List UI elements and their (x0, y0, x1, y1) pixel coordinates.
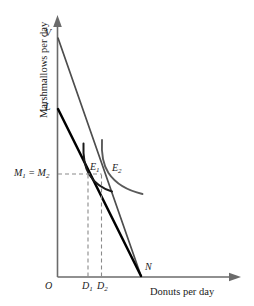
y-axis-arrowhead (53, 15, 62, 27)
x-axis-title: Donuts per day (150, 287, 214, 298)
x-axis-arrowhead (229, 273, 241, 281)
x-tick-label-d1: D1 (82, 281, 93, 293)
point-label-n: N (145, 262, 152, 272)
y-tick-label-m1-equals-m2: M1 = M2 (14, 168, 49, 180)
budget-line-ln (58, 109, 141, 276)
equilibrium-label-e2-sub: 2 (118, 167, 122, 175)
budget-line-vn (58, 38, 141, 276)
d2-sub: 2 (104, 285, 108, 293)
equilibrium-label-e1-sub: 1 (96, 166, 100, 174)
x-tick-label-d2: D2 (97, 281, 108, 293)
d1-sub: 1 (89, 285, 93, 293)
indifference-curve-2 (102, 140, 143, 194)
point-label-l: L (45, 102, 51, 112)
m-equality-operator: = M (26, 167, 46, 178)
y-axis (53, 15, 62, 277)
equilibrium-label-e1: E1 (90, 162, 100, 174)
equilibrium-label-e2: E2 (112, 163, 122, 175)
indifference-curve-figure: Marshmallows per day Donuts per day V L … (0, 0, 254, 306)
point-label-v: V (45, 28, 51, 38)
m2-sub: 2 (46, 172, 50, 180)
origin-label: O (45, 281, 52, 291)
